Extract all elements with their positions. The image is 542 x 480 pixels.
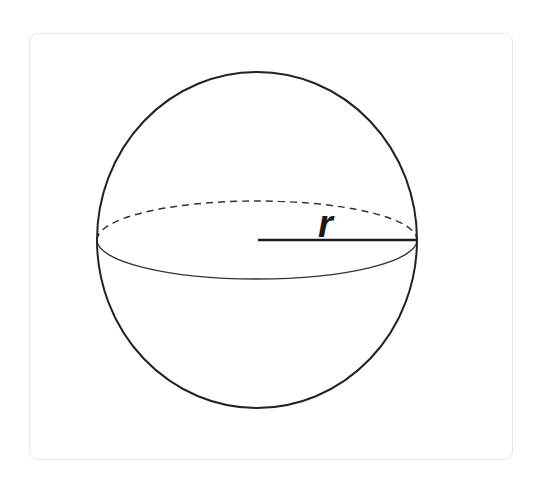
radius-label: r — [318, 203, 335, 245]
equator-front-solid — [97, 240, 417, 279]
sphere-diagram: r — [0, 0, 542, 480]
equator-back-dashed — [97, 201, 417, 240]
